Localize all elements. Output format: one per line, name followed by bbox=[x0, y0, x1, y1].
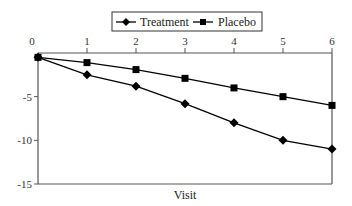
y-tick-label: -10 bbox=[17, 134, 32, 146]
square-marker-icon bbox=[200, 19, 206, 25]
y-ticks: -5-10-15 bbox=[17, 91, 38, 190]
data-point-placebo bbox=[329, 102, 336, 109]
x-ticks: 0123456 bbox=[29, 35, 335, 53]
data-point-treatment bbox=[83, 70, 92, 79]
data-point-treatment bbox=[230, 118, 239, 127]
data-point-placebo bbox=[84, 59, 91, 66]
data-point-treatment bbox=[181, 99, 190, 108]
x-tick-label: 4 bbox=[231, 35, 237, 47]
x-tick-label: 3 bbox=[182, 35, 188, 47]
data-point-treatment bbox=[328, 145, 337, 154]
data-point-placebo bbox=[231, 84, 238, 91]
y-tick-label: -5 bbox=[23, 91, 33, 103]
x-tick-label: 6 bbox=[329, 35, 335, 47]
data-point-placebo bbox=[280, 93, 287, 100]
x-tick-label: 5 bbox=[280, 35, 286, 47]
legend-label-placebo: Placebo bbox=[218, 15, 256, 29]
x-tick-label: 1 bbox=[84, 35, 90, 47]
y-tick-label: -15 bbox=[17, 178, 32, 190]
legend: Treatment Placebo bbox=[112, 12, 262, 31]
data-point-treatment bbox=[279, 136, 288, 145]
x-tick-label: 2 bbox=[133, 35, 139, 47]
data-point-placebo bbox=[182, 75, 189, 82]
series-group bbox=[34, 53, 337, 154]
data-point-placebo bbox=[35, 54, 42, 61]
x-tick-label: 0 bbox=[29, 35, 35, 47]
line-chart: Treatment Placebo 0123456 -5-10-15 Visit bbox=[0, 0, 352, 206]
data-point-placebo bbox=[133, 66, 140, 73]
x-axis-title: Visit bbox=[174, 188, 197, 202]
legend-label-treatment: Treatment bbox=[140, 15, 190, 29]
data-point-treatment bbox=[132, 82, 141, 91]
